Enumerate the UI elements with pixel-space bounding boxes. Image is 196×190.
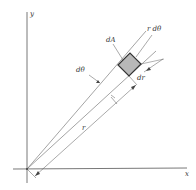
radius-label: r bbox=[82, 125, 85, 132]
rdtheta-leader bbox=[136, 35, 152, 57]
x-axis-label: x bbox=[185, 171, 189, 178]
r-arrow-origin-icon bbox=[35, 171, 40, 176]
r-dimension-tick-origin bbox=[28, 170, 36, 178]
polar-area-element-diagram: y x dA r dθ dθ dr r bbox=[0, 0, 196, 190]
r-dimension-tick-end bbox=[129, 76, 137, 85]
origin-point bbox=[26, 168, 28, 170]
dtheta-gap-tick-lower bbox=[111, 97, 117, 104]
upper-ray bbox=[27, 31, 146, 169]
diagram-canvas bbox=[0, 0, 196, 190]
radial-increment-label: dr bbox=[137, 75, 145, 82]
y-axis-label: y bbox=[30, 11, 34, 18]
angle-increment-label: dθ bbox=[76, 67, 85, 74]
x-axis bbox=[13, 168, 187, 169]
dA-leader bbox=[113, 44, 123, 60]
r-dimension-line bbox=[35, 85, 136, 176]
area-element-label: dA bbox=[106, 37, 116, 44]
arc-length-label: r dθ bbox=[147, 26, 161, 33]
area-element-dA bbox=[118, 53, 141, 76]
r-arrow-end-icon bbox=[131, 85, 136, 90]
